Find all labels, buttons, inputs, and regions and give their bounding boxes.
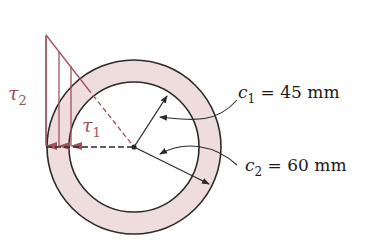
c2-label: c2 = 60 mm xyxy=(245,155,347,179)
tau2-label: τ2 xyxy=(8,82,27,108)
shaft-diagram: τ2 τ1 c1 = 45 mm c2 = 60 mm xyxy=(0,0,366,249)
c1-label: c1 = 45 mm xyxy=(238,82,340,106)
